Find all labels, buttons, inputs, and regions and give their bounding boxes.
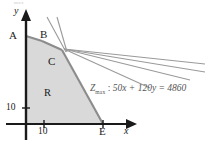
x-axis-tick-label-10: 10 <box>38 127 48 137</box>
region-label-r: R <box>44 88 51 99</box>
objective-expression: 50x + 120y = 4860 <box>113 83 187 93</box>
constraint-line-2 <box>57 17 67 52</box>
constraint-line-5 <box>64 49 190 80</box>
objective-function-annotation: Zmax : 50x + 120y = 4860 <box>90 84 186 95</box>
objective-subscript: max <box>95 89 105 95</box>
vertex-label-e: E <box>99 126 106 137</box>
plot-canvas <box>0 0 210 142</box>
y-axis-label: y <box>14 6 18 16</box>
x-axis-label: x <box>124 126 128 136</box>
constraint-line-4 <box>64 49 205 72</box>
y-axis-tick-label-10: 10 <box>6 103 16 113</box>
objective-separator: : <box>105 83 112 93</box>
vertex-label-c: C <box>48 56 55 67</box>
vertex-label-b: B <box>40 29 47 40</box>
linear-programming-figure: max y x A B C E R <box>0 0 210 142</box>
y-axis-arrowhead <box>21 9 31 21</box>
constraint-line-3 <box>64 49 205 64</box>
vertex-label-a: A <box>9 30 17 41</box>
